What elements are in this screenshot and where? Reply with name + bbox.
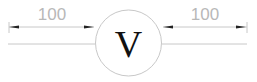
- left-dimension-label: 100: [38, 5, 66, 24]
- right-dimension: 100: [163, 5, 247, 33]
- voltmeter-diagram: 100 V 100: [0, 0, 257, 82]
- left-arrow-start-icon: [9, 26, 19, 29]
- right-dimension-label: 100: [191, 5, 219, 24]
- left-arrow-end-icon: [84, 26, 94, 29]
- right-arrow-end-icon: [236, 26, 246, 29]
- right-arrow-start-icon: [163, 26, 173, 29]
- left-dimension: 100: [9, 5, 94, 33]
- voltmeter-label: V: [115, 23, 143, 65]
